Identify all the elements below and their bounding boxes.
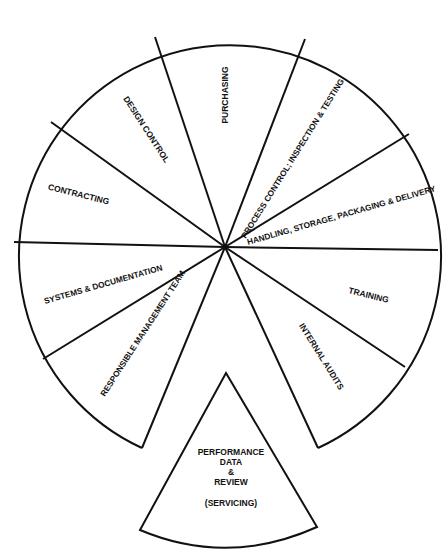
label-line-review: REVIEW [214, 477, 249, 487]
spoke-design-purchasing [155, 37, 225, 247]
label-contracting: CONTRACTING [47, 182, 111, 207]
spoke-contracting-systems [14, 242, 225, 247]
label-internal-audits: INTERNAL AUDITS [297, 321, 346, 391]
label-design-control: DESIGN CONTROL [121, 94, 171, 164]
spoke-design-contracting [51, 122, 225, 247]
label-systems-documentation: SYSTEMS & DOCUMENTATION [43, 262, 164, 305]
spoke-purchasing-process [225, 39, 305, 247]
label-line-data: DATA [220, 457, 242, 467]
label-training: TRAINING [348, 285, 391, 305]
label-line-performance: PERFORMANCE [198, 447, 265, 457]
label-purchasing: PURCHASING [220, 66, 230, 124]
quality-system-wheel-diagram: PURCHASING PROCESS CONTROL; INSPECTION &… [0, 0, 448, 559]
label-line-servicing: (SERVICING) [205, 498, 257, 508]
label-line-ampersand: & [228, 467, 234, 477]
hub-point [223, 245, 228, 250]
spoke-handling-training [225, 247, 438, 250]
label-responsible-management-team: RESPONSIBLE MANAGEMENT TEAM [98, 269, 187, 399]
